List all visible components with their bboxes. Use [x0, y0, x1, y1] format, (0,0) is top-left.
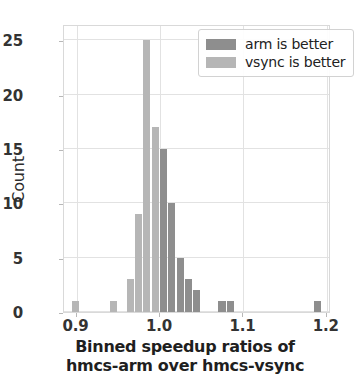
y-tick-label: 20	[0, 87, 23, 105]
legend-item-label: arm is better	[245, 36, 333, 52]
x-tick-label: 1.1	[217, 317, 267, 335]
x-axis-label-line1: Binned speedup ratios of	[40, 337, 330, 356]
histogram-bar	[218, 301, 225, 312]
legend-swatch-icon	[206, 39, 236, 50]
histogram-bar	[314, 301, 321, 312]
y-tick-mark	[59, 41, 63, 42]
x-tick-label: 1.0	[134, 317, 184, 335]
y-tick-label: 5	[0, 250, 23, 268]
histogram-bar	[168, 203, 175, 312]
histogram-bar	[143, 40, 150, 312]
histogram-bar	[177, 258, 184, 312]
histogram-bar	[127, 279, 134, 312]
y-tick-mark	[59, 96, 63, 97]
histogram-bar	[152, 127, 159, 312]
chart-legend: arm is bettervsync is better	[198, 29, 354, 77]
x-tick-mark	[76, 313, 77, 317]
histogram-bar	[110, 301, 117, 312]
histogram-bar	[227, 301, 234, 312]
x-axis-label-line2: hmcs-arm over hmcs-vsync	[40, 356, 330, 375]
x-tick-label: 0.9	[51, 317, 101, 335]
histogram-bar	[193, 290, 200, 312]
y-tick-mark	[59, 259, 63, 260]
y-tick-label: 0	[0, 304, 23, 322]
histogram-bar	[160, 149, 167, 312]
legend-item: arm is better	[206, 35, 345, 53]
x-tick-mark	[242, 313, 243, 317]
x-axis-label: Binned speedup ratios of hmcs-arm over h…	[40, 337, 330, 375]
y-tick-mark	[59, 204, 63, 205]
y-tick-mark	[59, 150, 63, 151]
histogram-bar	[185, 279, 192, 312]
legend-swatch-icon	[206, 57, 236, 68]
x-tick-label: 1.2	[301, 317, 351, 335]
histogram-figure: 0510152025 0.91.01.11.2 Count Binned spe…	[0, 0, 359, 390]
histogram-bar	[135, 214, 142, 312]
y-tick-label: 25	[0, 32, 23, 50]
y-tick-mark	[59, 313, 63, 314]
legend-item: vsync is better	[206, 53, 345, 71]
x-tick-mark	[326, 313, 327, 317]
histogram-bar	[72, 301, 79, 312]
x-tick-mark	[159, 313, 160, 317]
legend-item-label: vsync is better	[245, 54, 345, 70]
y-axis-label: Count	[9, 130, 28, 230]
